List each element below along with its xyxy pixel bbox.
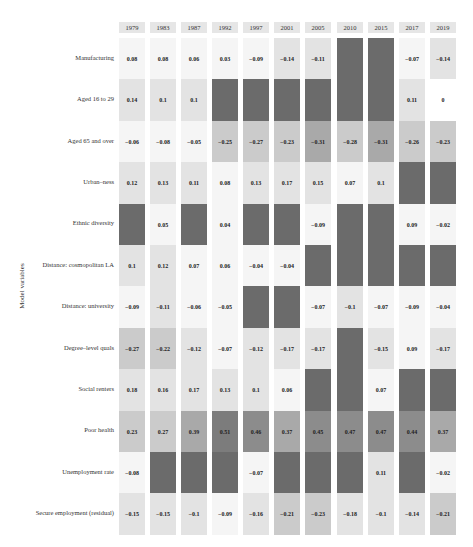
value-cell: −0.04: [430, 286, 456, 328]
value-cell: −0.06: [119, 121, 145, 163]
value-cell: 0.18: [119, 369, 145, 411]
value-cell: 0.37: [430, 411, 456, 453]
value-cell: 0.39: [181, 411, 207, 453]
excluded-cell: [430, 369, 456, 411]
excluded-cell: [368, 79, 394, 121]
value-cell: −0.06: [181, 286, 207, 328]
row-label: Manufacturing: [30, 54, 114, 61]
value-cell: 0.11: [181, 162, 207, 204]
value-cell: −0.25: [212, 121, 238, 163]
value-cell: 0.47: [368, 411, 394, 453]
value-cell: −0.15: [150, 493, 176, 535]
value-cell: 0.08: [150, 38, 176, 80]
value-cell: −0.09: [305, 204, 331, 246]
value-cell: −0.17: [274, 328, 300, 370]
column-header-2001: 2001: [274, 22, 300, 33]
value-cell: 0.07: [181, 245, 207, 287]
value-cell: −0.14: [430, 38, 456, 80]
value-cell: 0.15: [305, 162, 331, 204]
column-header-2015: 2015: [368, 22, 394, 33]
value-cell: 0.44: [399, 411, 425, 453]
row-label: Degree–level quals: [30, 344, 114, 351]
value-cell: 0.13: [150, 162, 176, 204]
value-cell: 0.14: [119, 79, 145, 121]
excluded-cell: [274, 452, 300, 494]
excluded-cell: [274, 79, 300, 121]
column-header-1987: 1987: [181, 22, 207, 33]
value-cell: 0.17: [181, 369, 207, 411]
column-header-1979: 1979: [119, 22, 145, 33]
value-cell: 0.45: [305, 411, 331, 453]
excluded-cell: [119, 204, 145, 246]
value-cell: 0.06: [212, 245, 238, 287]
excluded-cell: [305, 452, 331, 494]
value-cell: 0.08: [119, 38, 145, 80]
value-cell: 0.06: [181, 38, 207, 80]
value-cell: −0.04: [274, 245, 300, 287]
value-cell: 0.08: [212, 162, 238, 204]
value-cell: −0.27: [243, 121, 269, 163]
excluded-cell: [399, 245, 425, 287]
column-header-1992: 1992: [212, 22, 238, 33]
value-cell: −0.27: [119, 328, 145, 370]
value-cell: −0.1: [368, 493, 394, 535]
row-label: Ethnic diversity: [30, 219, 114, 226]
excluded-cell: [337, 204, 363, 246]
excluded-cell: [181, 452, 207, 494]
value-cell: 0.1: [243, 369, 269, 411]
value-cell: −0.05: [181, 121, 207, 163]
value-cell: 0.47: [337, 411, 363, 453]
excluded-cell: [212, 452, 238, 494]
value-cell: 0.03: [212, 38, 238, 80]
row-label: Secure employment (residual): [30, 509, 114, 516]
value-cell: −0.15: [368, 328, 394, 370]
excluded-cell: [337, 79, 363, 121]
value-cell: 0.17: [274, 162, 300, 204]
row-label: Urban–ness: [30, 178, 114, 185]
excluded-cell: [337, 38, 363, 80]
excluded-cell: [212, 79, 238, 121]
excluded-cell: [399, 369, 425, 411]
excluded-cell: [368, 38, 394, 80]
value-cell: −0.23: [430, 121, 456, 163]
value-cell: 0.07: [368, 369, 394, 411]
excluded-cell: [305, 245, 331, 287]
value-cell: 0.12: [119, 162, 145, 204]
value-cell: −0.07: [243, 452, 269, 494]
value-cell: −0.1: [337, 286, 363, 328]
excluded-cell: [368, 204, 394, 246]
row-label: Distance: university: [30, 302, 114, 309]
value-cell: −0.16: [243, 493, 269, 535]
value-cell: −0.07: [399, 38, 425, 80]
value-cell: 0: [430, 79, 456, 121]
value-cell: −0.05: [212, 286, 238, 328]
excluded-cell: [337, 328, 363, 370]
value-cell: 0.12: [150, 245, 176, 287]
value-cell: −0.18: [337, 493, 363, 535]
excluded-cell: [430, 245, 456, 287]
value-cell: −0.09: [119, 286, 145, 328]
excluded-cell: [150, 452, 176, 494]
value-cell: −0.09: [243, 38, 269, 80]
excluded-cell: [399, 452, 425, 494]
column-header-2005: 2005: [305, 22, 331, 33]
value-cell: 0.13: [212, 369, 238, 411]
excluded-cell: [274, 204, 300, 246]
excluded-cell: [305, 79, 331, 121]
value-cell: −0.11: [305, 38, 331, 80]
row-label: Unemployment rate: [30, 468, 114, 475]
value-cell: −0.22: [150, 328, 176, 370]
row-label: Aged 16 to 29: [30, 95, 114, 102]
column-header-1983: 1983: [150, 22, 176, 33]
excluded-cell: [243, 286, 269, 328]
value-cell: −0.02: [430, 204, 456, 246]
value-cell: −0.21: [274, 493, 300, 535]
value-cell: 0.06: [274, 369, 300, 411]
excluded-cell: [337, 452, 363, 494]
excluded-cell: [243, 79, 269, 121]
excluded-cell: [181, 204, 207, 246]
column-header-2010: 2010: [337, 22, 363, 33]
value-cell: 0.11: [399, 79, 425, 121]
value-cell: 0.07: [337, 162, 363, 204]
value-cell: 0.1: [181, 79, 207, 121]
